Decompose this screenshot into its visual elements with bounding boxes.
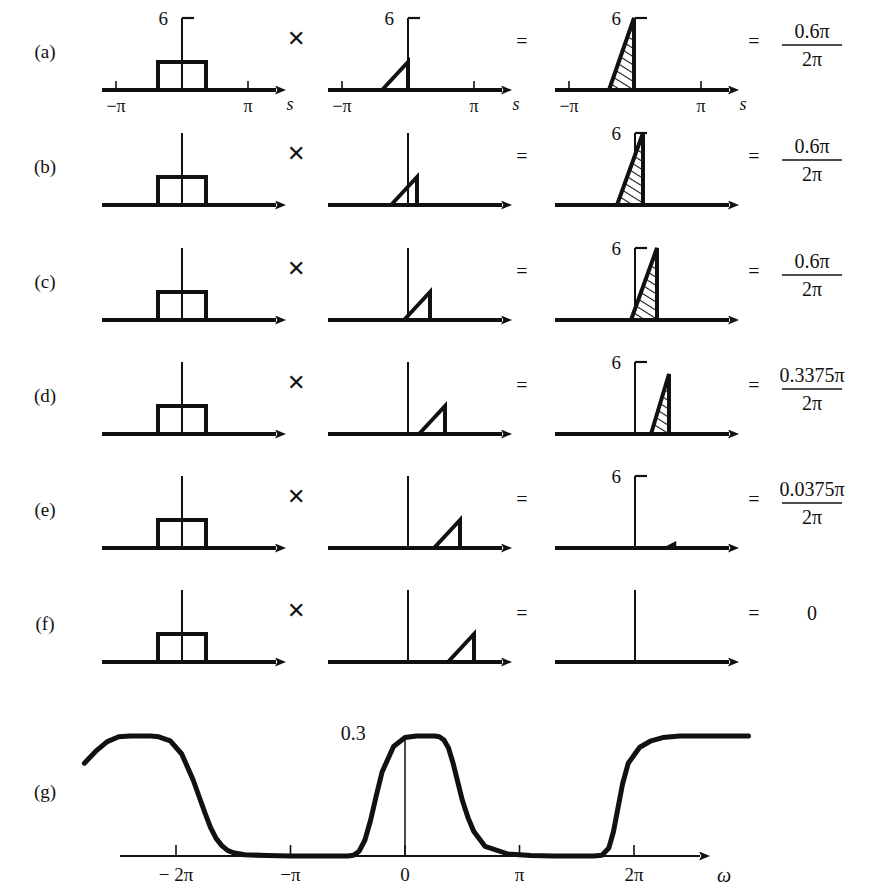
operator-multiply: ✕ xyxy=(287,256,305,281)
operator-equals-result: = xyxy=(748,145,759,167)
operator-equals-result: = xyxy=(748,30,759,52)
operator-multiply: ✕ xyxy=(287,484,305,509)
peak-label-0.3: 0.3 xyxy=(341,722,366,744)
result-numerator: 0.0375π xyxy=(779,478,844,500)
tick-label-1: −π xyxy=(280,864,301,885)
operator-equals-result: = xyxy=(748,488,759,510)
row-label-c: (c) xyxy=(34,271,55,293)
tick-label-minus-pi: −π xyxy=(332,96,351,116)
peak-label-6: 6 xyxy=(612,238,622,259)
result-numerator: 0.6π xyxy=(794,250,829,272)
operator-equals-result: = xyxy=(748,602,759,624)
operator-equals-product: = xyxy=(516,30,527,52)
result-numerator: 0.6π xyxy=(794,135,829,157)
tick-label-minus-pi: −π xyxy=(106,96,125,116)
result-denominator: 2π xyxy=(802,278,822,300)
operator-equals-product: = xyxy=(516,145,527,167)
peak-label-6: 6 xyxy=(159,8,169,29)
peak-label-6: 6 xyxy=(385,8,395,29)
row-label-a: (a) xyxy=(34,41,55,63)
row-label-g: (g) xyxy=(34,781,56,803)
tick-label-0: − 2π xyxy=(159,864,194,885)
axis-variable-s: s xyxy=(286,94,293,114)
operator-multiply: ✕ xyxy=(287,26,305,51)
row-label-e: (e) xyxy=(34,499,55,521)
row-label-b: (b) xyxy=(34,156,56,178)
tick-label-4: 2π xyxy=(624,864,644,885)
tick-label-pi: π xyxy=(696,96,705,116)
tick-label-2: 0 xyxy=(400,864,410,885)
operator-equals-product: = xyxy=(516,488,527,510)
tick-label-3: π xyxy=(515,864,525,885)
convolution-figure: (a)6−ππs✕6−ππs=6−ππs=0.6π2π(b)✕=6=0.6π2π… xyxy=(0,0,870,888)
tick-label-pi: π xyxy=(243,96,252,116)
operator-equals-result: = xyxy=(748,374,759,396)
result-numerator: 0.3375π xyxy=(779,364,844,386)
axis-variable-omega: ω xyxy=(717,864,731,886)
axis-variable-s: s xyxy=(739,94,746,114)
figure-canvas: (a)6−ππs✕6−ππs=6−ππs=0.6π2π(b)✕=6=0.6π2π… xyxy=(0,0,870,888)
row-label-f: (f) xyxy=(36,613,55,635)
operator-equals-result: = xyxy=(748,260,759,282)
operator-multiply: ✕ xyxy=(287,598,305,623)
operator-multiply: ✕ xyxy=(287,370,305,395)
peak-label-6: 6 xyxy=(612,123,622,144)
operator-equals-product: = xyxy=(516,374,527,396)
peak-label-6: 6 xyxy=(612,8,622,29)
tick-label-pi: π xyxy=(469,96,478,116)
operator-equals-product: = xyxy=(516,602,527,624)
axis-variable-s: s xyxy=(512,94,519,114)
operator-multiply: ✕ xyxy=(287,141,305,166)
tick-label-minus-pi: −π xyxy=(559,96,578,116)
result-denominator: 2π xyxy=(802,506,822,528)
operator-equals-product: = xyxy=(516,260,527,282)
peak-label-6: 6 xyxy=(612,352,622,373)
peak-label-6: 6 xyxy=(612,466,622,487)
figure-background xyxy=(0,0,870,888)
result-denominator: 2π xyxy=(802,392,822,414)
row-label-d: (d) xyxy=(34,385,56,407)
result-denominator: 2π xyxy=(802,48,822,70)
result-numerator: 0.6π xyxy=(794,20,829,42)
result-value: 0 xyxy=(807,602,817,624)
result-denominator: 2π xyxy=(802,163,822,185)
